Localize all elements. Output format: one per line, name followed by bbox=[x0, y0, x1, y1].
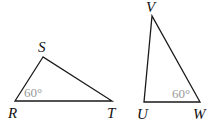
vertex-label-v: V bbox=[146, 0, 157, 15]
vertex-label-u: U bbox=[137, 106, 149, 122]
vertex-label-w: W bbox=[193, 106, 207, 122]
angle-label-r: 60° bbox=[24, 85, 42, 100]
vertex-label-r: R bbox=[7, 105, 17, 121]
vertex-label-t: T bbox=[107, 105, 117, 121]
vertex-label-s: S bbox=[38, 39, 46, 55]
geometry-figure: S R T 60° V U W 60° bbox=[0, 0, 215, 127]
angle-label-w: 60° bbox=[172, 86, 190, 101]
